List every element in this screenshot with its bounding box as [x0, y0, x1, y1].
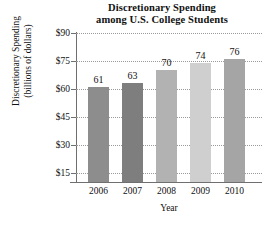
y-axis-tick [71, 33, 76, 34]
y-axis-tick [71, 61, 76, 62]
x-axis-title: Year [76, 203, 262, 213]
y-axis-tick-label: $45 [56, 112, 70, 122]
chart-title: Discretionary Spending among U.S. Colleg… [62, 2, 262, 26]
chart-title-line-1: Discretionary Spending [62, 2, 262, 14]
y-axis-tick [71, 89, 76, 90]
y-axis-tick-label: $90 [56, 28, 70, 38]
bar-2007: 63 [122, 83, 143, 182]
y-axis-title-line-2: (billions of dollars) [23, 0, 35, 147]
y-axis-tick-label: $15 [56, 168, 70, 178]
y-axis-tick [71, 173, 76, 174]
x-axis-line [70, 182, 262, 183]
y-axis-tick-label: $75 [56, 56, 70, 66]
x-axis-tick-label-2006: 2006 [89, 186, 108, 196]
x-axis-tick-label-2009: 2009 [191, 186, 210, 196]
x-axis-tick-label-2007: 2007 [123, 186, 142, 196]
bar-value-label: 76 [230, 46, 240, 57]
bar-chart-figure: Discretionary Spending among U.S. Colleg… [0, 0, 267, 225]
plot-area: $90$75$60$45$30$15 6163707476 [76, 33, 262, 182]
y-axis-title: Discretionary Spending (billions of doll… [11, 0, 37, 147]
bar-value-label: 63 [128, 70, 138, 81]
y-axis-tick-label: $30 [56, 140, 70, 150]
bar-2009: 74 [190, 63, 211, 182]
chart-title-line-2: among U.S. College Students [62, 14, 262, 26]
y-axis-title-line-1: Discretionary Spending [11, 0, 23, 147]
y-axis-tick [71, 117, 76, 118]
bar-2006: 61 [88, 87, 109, 182]
y-axis-tick [71, 145, 76, 146]
bar-2008: 70 [156, 70, 177, 182]
x-axis-tick-label-2008: 2008 [157, 186, 176, 196]
bar-value-label: 74 [196, 50, 206, 61]
bar-2010: 76 [224, 59, 245, 182]
bar-value-label: 61 [94, 74, 104, 85]
gridline [76, 33, 262, 34]
y-axis-tick-label: $60 [56, 84, 70, 94]
x-axis-tick-label-2010: 2010 [225, 186, 244, 196]
bar-value-label: 70 [162, 57, 172, 68]
